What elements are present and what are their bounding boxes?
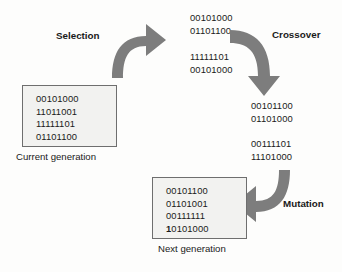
chromosome: 00101000 bbox=[190, 12, 233, 25]
chromosome: 01101001 bbox=[166, 198, 246, 211]
chromosome: 11101000 bbox=[251, 151, 292, 164]
current-generation-chromosomes: 00101000 11011001 11111101 01101100 bbox=[23, 86, 116, 150]
chromosome: 01101100 bbox=[190, 25, 233, 38]
selection-arrow-icon bbox=[104, 18, 170, 80]
next-generation-chromosomes: 00101100 01101001 00111111 10101000 bbox=[153, 178, 246, 242]
crossover-pair-1: 00101100 01101000 bbox=[251, 100, 293, 125]
chromosome: 00111111 bbox=[166, 210, 246, 223]
crossover-arrow-icon bbox=[228, 26, 280, 98]
current-generation-caption: Current generation bbox=[16, 151, 96, 162]
chromosome: 00101100 bbox=[166, 185, 246, 198]
genetic-algorithm-diagram: Selection 00101000 01101100 11111101 001… bbox=[0, 0, 342, 272]
current-generation-box: 00101000 11011001 11111101 01101100 bbox=[22, 85, 117, 147]
chromosome-mutated: 10101000 bbox=[166, 223, 246, 236]
next-generation-caption: Next generation bbox=[158, 243, 226, 254]
chromosome: 11011001 bbox=[36, 106, 116, 119]
chromosome: 00111101 bbox=[251, 138, 292, 151]
chromosome: 11111101 bbox=[36, 118, 116, 131]
next-generation-box: 00101100 01101001 00111111 10101000 bbox=[152, 177, 247, 239]
selected-pair-2: 11111101 00101000 bbox=[190, 51, 233, 76]
chromosome: 00101000 bbox=[36, 93, 116, 106]
crossover-pair-2: 00111101 11101000 bbox=[251, 138, 292, 163]
selected-pair-1: 00101000 01101100 bbox=[190, 12, 233, 37]
step-label-selection: Selection bbox=[56, 30, 100, 41]
chromosome: 01101000 bbox=[251, 113, 293, 126]
chromosome: 01101100 bbox=[36, 131, 116, 144]
chromosome: 00101000 bbox=[190, 64, 233, 77]
chromosome: 11111101 bbox=[190, 51, 233, 64]
chromosome: 00101100 bbox=[251, 100, 293, 113]
mutated-remainder: 0101000 bbox=[171, 223, 208, 234]
